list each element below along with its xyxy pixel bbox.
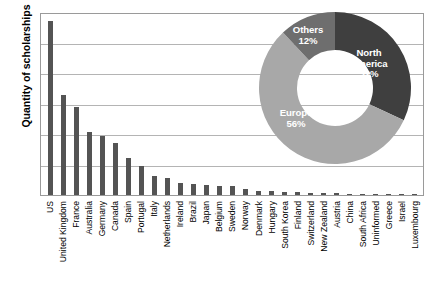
- bar-item: [122, 13, 135, 195]
- bar-item: [213, 13, 226, 195]
- x-axis-label-cell: Finland: [291, 199, 304, 287]
- bar: [321, 193, 326, 195]
- bar: [412, 194, 417, 195]
- bar-item: [44, 13, 57, 195]
- x-axis-label-cell: Portugal: [134, 199, 147, 287]
- bar: [256, 191, 261, 195]
- x-axis-label-cell: Israel: [396, 199, 409, 287]
- x-axis-label-cell: New Zealand: [317, 199, 330, 287]
- x-axis-tick-label: Brazil: [188, 201, 198, 223]
- bar: [113, 143, 118, 195]
- bar-item: [109, 13, 122, 195]
- bar: [178, 183, 183, 195]
- bar-item: [135, 13, 148, 195]
- x-axis-tick-label: South Korea: [280, 201, 290, 249]
- bar: [347, 194, 352, 195]
- x-axis-label-cell: Germany: [95, 199, 108, 287]
- donut-label-others: Others 12%: [279, 25, 337, 46]
- bar: [48, 21, 53, 195]
- x-axis-tick-label: Japan: [201, 201, 211, 224]
- bar: [100, 136, 105, 195]
- x-axis-tick-label: Belgium: [214, 201, 224, 232]
- x-axis-tick-label: Sweden: [227, 201, 237, 232]
- x-axis-tick-label: Finland: [293, 201, 303, 229]
- x-axis-label-cell: United Kingdom: [56, 199, 69, 287]
- x-axis-tick-label: Denmark: [254, 201, 264, 236]
- x-axis-label-cell: South Korea: [278, 199, 291, 287]
- bar-item: [83, 13, 96, 195]
- x-axis-label-cell: Greece: [383, 199, 396, 287]
- bar: [126, 158, 131, 196]
- bar: [360, 194, 365, 195]
- x-axis-tick-label: South Africa: [358, 201, 368, 247]
- x-axis-label-cell: Sweden: [226, 199, 239, 287]
- bar: [152, 176, 157, 195]
- donut-label-north-america: North America 32%: [339, 48, 399, 80]
- bar: [282, 192, 287, 195]
- bar: [230, 186, 235, 195]
- x-axis-label-cell: Denmark: [252, 199, 265, 287]
- x-axis-label-cell: Brazil: [187, 199, 200, 287]
- x-axis-tick-label: Austria: [332, 201, 342, 228]
- x-axis-tick-label: Italy: [149, 201, 159, 217]
- x-axis-tick-label: United Kingdom: [58, 201, 68, 262]
- y-axis-title: Quantity of scholarships: [20, 0, 32, 146]
- x-axis-tick-label: Australia: [84, 201, 94, 234]
- x-axis-tick-label: New Zealand: [319, 201, 329, 252]
- x-axis-labels: USUnited KingdomFranceAustraliaGermanyCa…: [40, 199, 424, 287]
- x-axis-tick-label: France: [71, 201, 81, 228]
- x-axis-tick-label: Norway: [240, 201, 250, 230]
- x-axis-label-cell: Luxembourg: [409, 199, 422, 287]
- x-axis-label-cell: Uninformed: [370, 199, 383, 287]
- bar-item: [187, 13, 200, 195]
- x-axis-tick-label: Germany: [97, 201, 107, 236]
- bar-item: [96, 13, 109, 195]
- bar: [87, 132, 92, 195]
- x-axis-tick-label: Uninformed: [371, 201, 381, 245]
- bar: [295, 192, 300, 195]
- x-axis-tick-label: Canada: [110, 201, 120, 231]
- x-axis-label-cell: France: [69, 199, 82, 287]
- bar-item: [174, 13, 187, 195]
- bar-item: [226, 13, 239, 195]
- bar-item: [200, 13, 213, 195]
- x-axis-label-cell: Norway: [239, 199, 252, 287]
- x-axis-label-cell: Spain: [121, 199, 134, 287]
- x-axis-label-cell: Australia: [82, 199, 95, 287]
- x-axis-tick-label: Ireland: [175, 201, 185, 227]
- bar: [61, 95, 66, 195]
- bar: [139, 166, 144, 195]
- x-axis-label-cell: Italy: [148, 199, 161, 287]
- x-axis-tick-label: Spain: [123, 201, 133, 223]
- bar: [217, 186, 222, 195]
- bar-item: [57, 13, 70, 195]
- bar-item: [148, 13, 161, 195]
- x-axis-label-cell: China: [343, 199, 356, 287]
- x-axis-label-cell: Belgium: [213, 199, 226, 287]
- bar: [308, 193, 313, 195]
- inset-donut-chart: North America 32% Europe 56% Others 12%: [255, 8, 415, 168]
- x-axis-tick-label: Israel: [397, 201, 407, 222]
- bar: [334, 193, 339, 195]
- x-axis-tick-label: US: [45, 201, 55, 213]
- x-axis-tick-label: Greece: [384, 201, 394, 229]
- bar: [373, 194, 378, 195]
- bar: [399, 194, 404, 195]
- bar: [386, 194, 391, 195]
- x-axis-label-cell: Ireland: [174, 199, 187, 287]
- x-axis-label-cell: South Africa: [357, 199, 370, 287]
- x-axis-label-cell: Hungary: [265, 199, 278, 287]
- bar: [243, 189, 248, 195]
- x-axis-tick-label: Luxembourg: [410, 201, 420, 249]
- x-axis-tick-label: China: [345, 201, 355, 223]
- bar: [165, 178, 170, 195]
- x-axis-tick-label: Portugal: [136, 201, 146, 233]
- bar-item: [239, 13, 252, 195]
- bar-item: [161, 13, 174, 195]
- x-axis-label-cell: Austria: [330, 199, 343, 287]
- x-axis-tick-label: Switzerland: [306, 201, 316, 245]
- x-axis-label-cell: Netherlands: [161, 199, 174, 287]
- bar: [191, 184, 196, 195]
- x-axis-tick-label: Hungary: [267, 201, 277, 233]
- x-axis-label-cell: US: [43, 199, 56, 287]
